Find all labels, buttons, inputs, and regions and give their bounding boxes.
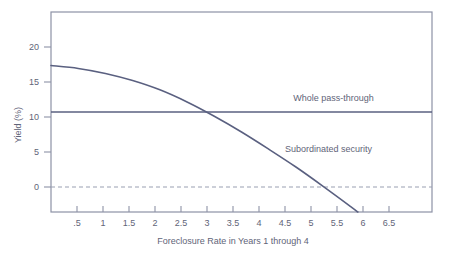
x-tick-label-1: 1 <box>100 218 105 228</box>
x-axis-title: Foreclosure Rate in Years 1 through 4 <box>157 236 309 246</box>
y-tick-label-5: 5 <box>34 147 39 157</box>
chart-canvas: 20 15 10 5 0 Yield (%) .5 1 <box>0 0 452 263</box>
y-tick-label-20: 20 <box>29 42 39 52</box>
x-tick-label-6-5: 6.5 <box>383 218 396 228</box>
x-tick-label-4: 4 <box>256 218 261 228</box>
series-label-subordinated-security: Subordinated security <box>285 144 373 154</box>
y-tick-label-10: 10 <box>29 112 39 122</box>
y-tick-label-15: 15 <box>29 77 39 87</box>
x-tick-label-1-5: 1.5 <box>123 218 136 228</box>
series-label-whole-pass-through: Whole pass-through <box>293 93 374 103</box>
x-tick-label-2-5: 2.5 <box>175 218 188 228</box>
x-tick-label-4-5: 4.5 <box>279 218 292 228</box>
x-tick-label-3: 3 <box>204 218 209 228</box>
x-tick-label-5-5: 5.5 <box>331 218 344 228</box>
x-tick-label-2: 2 <box>152 218 157 228</box>
x-tick-label-6: 6 <box>360 218 365 228</box>
x-tick-label-5: 5 <box>308 218 313 228</box>
x-tick-label-3-5: 3.5 <box>227 218 240 228</box>
chart-figure: 20 15 10 5 0 Yield (%) .5 1 <box>0 0 452 263</box>
y-tick-label-0: 0 <box>34 182 39 192</box>
y-axis-title: Yield (%) <box>13 107 23 143</box>
x-tick-label-0-5: .5 <box>73 218 81 228</box>
